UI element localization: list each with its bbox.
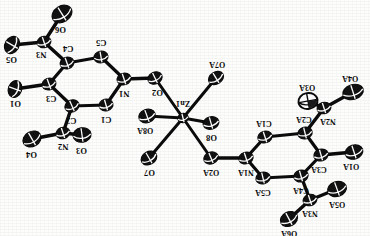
atom-label-O8A: O8A [137,126,153,134]
atom-label-N1: N1 [119,89,130,98]
atom-O3 [72,127,92,144]
atom-label-O7A: O7A [209,60,225,68]
atom-label-O6: O6 [55,25,66,34]
atom-O4A [341,82,366,103]
atom-label-O1: O1 [10,99,21,108]
atom-N2 [55,126,72,141]
atom-label-O8: O8 [206,133,217,142]
atom-label-N1A: N1A [238,168,254,176]
atom-label-O3: O3 [76,146,87,155]
atom-label-O3A: O3A [299,83,315,91]
atom-O1 [6,79,24,99]
crystal-structure-drawing [0,0,370,236]
atom-label-C5A: C5A [255,188,271,196]
atom-C1 [98,97,115,112]
bond-O2-Zn1 [155,78,183,118]
atom-label-N3A: N3A [302,209,318,217]
atom-label-O7: O7 [144,168,155,177]
atom-label-O5: O5 [6,55,17,64]
atom-label-O5A: O5A [329,200,345,208]
ortep-figure-canvas: O6N3O5C4C5N1C1C2C3O1N2O3O4O2Zn1O7AO8O8AO… [0,0,370,236]
atom-O1A [343,143,364,162]
atom-O2A [202,150,220,166]
atom-label-Zn1: Zn1 [176,99,190,107]
atom-O4 [20,128,44,150]
atom-label-C5: C5 [96,38,107,47]
atom-label-C3: C3 [46,94,57,103]
atom-label-C4: C4 [63,44,74,53]
atom-label-C3A: C3A [311,165,327,173]
atom-label-O2A: O2A [203,168,219,176]
atom-O2 [146,70,164,87]
atom-label-C2A: C2A [296,115,312,123]
atom-label-O4: O4 [26,150,37,159]
atom-O6 [49,2,75,27]
atom-label-N2A: N2A [320,117,336,125]
atom-O5 [1,34,22,57]
atom-label-C4A: C4A [293,186,309,194]
atom-label-O2: O2 [152,88,163,97]
atom-label-O4A: O4A [342,74,358,82]
atom-O3A [297,91,319,110]
atom-label-C1A: C1A [256,119,272,127]
atom-label-N3: N3 [36,50,47,59]
atom-label-C2: C2 [66,116,77,125]
atom-O5A [325,179,348,199]
atom-O8A [137,107,157,125]
atom-label-N2: N2 [58,142,69,151]
atom-O8 [202,115,221,131]
atom-label-O6A: O6A [281,229,297,236]
atom-label-O1A: O1A [343,162,359,170]
atom-label-C1: C1 [101,115,112,124]
